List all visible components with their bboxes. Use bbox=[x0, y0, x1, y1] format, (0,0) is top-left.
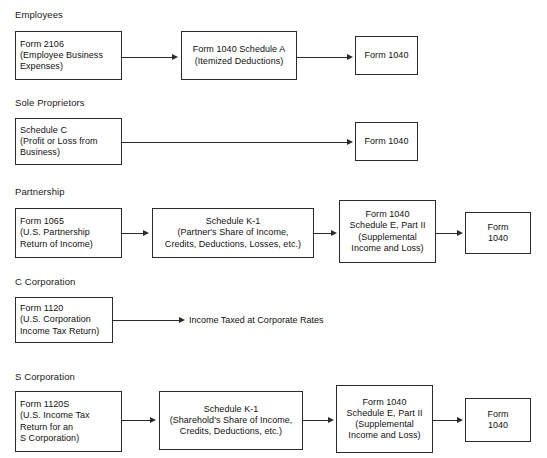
node-form-1040-schedule-a: Form 1040 Schedule A (Itemized Deduction… bbox=[181, 31, 297, 80]
section-label-s-corporation: S Corporation bbox=[15, 371, 75, 382]
node-form-2106: Form 2106 (Employee Business Expenses) bbox=[15, 31, 122, 80]
connector-arrow-line bbox=[122, 420, 151, 421]
section-label-partnership: Partnership bbox=[15, 186, 65, 197]
node-line: Schedule C bbox=[20, 125, 67, 136]
connector-arrow-line bbox=[297, 57, 348, 58]
node-line: Credits, Deductions, etc.) bbox=[180, 426, 282, 437]
node-form-1065: Form 1065 (U.S. Partnership Return of In… bbox=[15, 208, 122, 258]
node-form-1120: Form 1120 (U.S. Corporation Income Tax R… bbox=[15, 297, 113, 343]
connector-arrow-line bbox=[113, 320, 180, 321]
node-line: Income and Loss) bbox=[351, 243, 423, 254]
arrow-head-icon bbox=[331, 230, 337, 236]
arrow-head-icon bbox=[347, 139, 353, 145]
node-line: Credits, Deductions, Losses, etc.) bbox=[165, 239, 301, 250]
node-form-1040-schedule-e-s-corporation: Form 1040 Schedule E, Part II (Supplemen… bbox=[336, 385, 433, 453]
node-line: Form 1120 bbox=[20, 303, 63, 314]
node-line: Return of Income) bbox=[20, 239, 93, 250]
node-line: (U.S. Partnership bbox=[20, 227, 90, 238]
connector-arrow-line bbox=[436, 233, 458, 234]
connector-arrow-line bbox=[303, 420, 329, 421]
node-schedule-k1-partnership: Schedule K-1 (Partner's Share of Income,… bbox=[152, 208, 314, 258]
node-line: Income Tax Return) bbox=[20, 326, 99, 337]
section-label-c-corporation: C Corporation bbox=[15, 276, 75, 287]
node-line: 1040 bbox=[488, 420, 508, 431]
connector-arrow-line bbox=[122, 142, 348, 143]
node-form-1040-sole-proprietors: Form 1040 bbox=[355, 122, 418, 161]
connector-arrow-line bbox=[314, 233, 332, 234]
node-line: Income and Loss) bbox=[348, 430, 420, 441]
node-line: (Employee Business bbox=[20, 50, 103, 61]
node-line: Expenses) bbox=[20, 61, 63, 72]
node-line: 1040 bbox=[488, 233, 508, 244]
arrow-head-icon bbox=[347, 54, 353, 60]
arrow-head-icon bbox=[457, 230, 463, 236]
node-line: Schedule E, Part II bbox=[347, 408, 423, 419]
node-line: (U.S. Income Tax bbox=[20, 410, 90, 421]
arrow-head-icon bbox=[150, 417, 156, 423]
flowchart-canvas: Employees Form 2106 (Employee Business E… bbox=[0, 0, 547, 458]
node-form-1040-s-corporation: Form 1040 bbox=[465, 398, 531, 442]
node-line: Form 1040 bbox=[363, 397, 407, 408]
node-form-1040-employees: Form 1040 bbox=[355, 36, 418, 75]
connector-arrow-line bbox=[122, 233, 144, 234]
section-label-sole-proprietors: Sole Proprietors bbox=[15, 97, 85, 108]
node-line: Schedule E, Part II bbox=[350, 220, 426, 231]
node-line: Form 1040 Schedule A bbox=[193, 44, 286, 55]
node-form-1120s: Form 1120S (U.S. Income Tax Return for a… bbox=[15, 391, 122, 452]
node-line: Form 1040 bbox=[365, 50, 409, 61]
node-line: Form bbox=[487, 409, 508, 420]
arrow-head-icon bbox=[328, 417, 334, 423]
node-line: (Supplemental bbox=[355, 419, 414, 430]
node-line: Schedule K-1 bbox=[204, 404, 259, 415]
node-line: Form 1040 bbox=[366, 209, 410, 220]
connector-arrow-line bbox=[433, 420, 458, 421]
terminal-text-income-taxed: Income Taxed at Corporate Rates bbox=[189, 315, 323, 326]
node-line: Form 2106 bbox=[20, 39, 64, 50]
arrow-head-icon bbox=[143, 230, 149, 236]
node-form-1040-schedule-e-partnership: Form 1040 Schedule E, Part II (Supplemen… bbox=[339, 200, 436, 263]
node-line: Form 1120S bbox=[20, 399, 69, 410]
node-line: (U.S. Corporation bbox=[20, 314, 91, 325]
node-line: Return for an bbox=[20, 422, 73, 433]
section-label-employees: Employees bbox=[15, 9, 63, 20]
arrow-head-icon bbox=[172, 54, 178, 60]
node-line: (Itemized Deductions) bbox=[195, 56, 284, 67]
node-line: Business) bbox=[20, 147, 60, 158]
node-line: (Partner's Share of Income, bbox=[177, 227, 288, 238]
node-line: Form 1040 bbox=[365, 136, 409, 147]
node-line: (Supplemental bbox=[358, 232, 417, 243]
node-line: Form bbox=[487, 222, 508, 233]
node-line: S Corporation) bbox=[20, 433, 79, 444]
node-schedule-k1-s-corporation: Schedule K-1 (Sharehold's Share of Incom… bbox=[159, 391, 303, 450]
node-form-1040-partnership: Form 1040 bbox=[465, 212, 531, 254]
arrow-head-icon bbox=[457, 417, 463, 423]
node-line: (Sharehold's Share of Income, bbox=[170, 415, 293, 426]
arrow-head-icon bbox=[179, 317, 185, 323]
node-line: Schedule K-1 bbox=[206, 216, 261, 227]
node-line: (Profit or Loss from bbox=[20, 136, 98, 147]
node-schedule-c: Schedule C (Profit or Loss from Business… bbox=[15, 118, 122, 165]
connector-arrow-line bbox=[122, 57, 173, 58]
node-line: Form 1065 bbox=[20, 216, 64, 227]
